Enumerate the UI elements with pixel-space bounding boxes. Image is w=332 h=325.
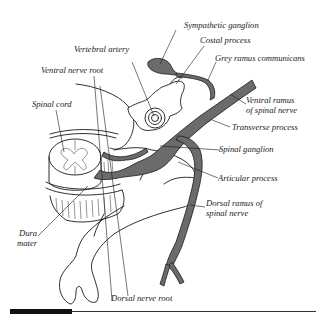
label-dorsal-ramus-2: spinal nerve [206,208,248,218]
label-vertebral-artery: Vertebral artery [74,44,129,54]
label-dura-1: Dura [18,228,37,238]
anatomy-figure: Sympathetic ganglion Costal process Grey… [0,0,332,325]
label-grey-ramus: Grey ramus communicans [215,53,306,63]
vertebral-artery [145,108,165,128]
label-ventral-ramus-2: of spinal nerve [246,105,297,115]
label-transverse-process: Transverse process [232,122,298,132]
label-spinal-ganglion: Spinal ganglion [219,144,274,154]
label-costal-process: Costal process [200,35,251,45]
vertebra-outline [59,77,212,304]
label-ventral-ramus-1: Ventral ramus [246,95,295,105]
label-dorsal-nerve-root: Dorsal nerve root [110,293,173,303]
label-spinal-cord: Spinal cord [32,99,72,109]
bottom-rule [10,309,316,314]
label-dorsal-ramus-1: Dorsal ramus of [205,198,264,208]
label-ventral-nerve-root: Ventral nerve root [41,65,104,75]
label-dura-2: mater [17,238,38,248]
label-articular-process: Articular process [217,173,278,183]
label-sympathetic-ganglion: Sympathetic ganglion [184,20,259,30]
